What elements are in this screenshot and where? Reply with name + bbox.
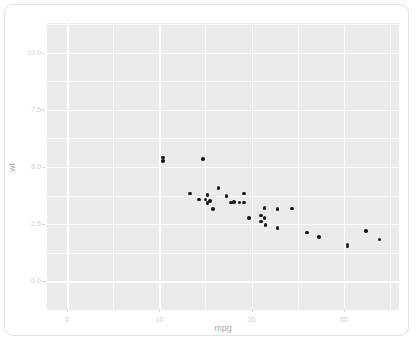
data-point bbox=[161, 156, 165, 160]
data-point bbox=[276, 207, 280, 211]
data-point bbox=[206, 193, 210, 197]
plot-card: 0.02.55.07.510.0 0102030 mpg wt bbox=[4, 4, 409, 336]
x-axis-title-text: mpg bbox=[214, 323, 232, 333]
gridline-minor-horizontal bbox=[47, 253, 399, 254]
gridline-minor-horizontal bbox=[47, 24, 399, 25]
x-axis-title: mpg bbox=[47, 324, 399, 333]
gridline-major-horizontal bbox=[47, 53, 399, 54]
y-tick-mark bbox=[42, 224, 45, 225]
gridline-major-horizontal bbox=[47, 110, 399, 111]
y-tick-label: 5.0 bbox=[31, 163, 41, 170]
data-point bbox=[378, 238, 382, 242]
y-axis-title-text: wt bbox=[8, 163, 17, 172]
x-tick-label: 0 bbox=[53, 316, 81, 323]
scatter-plot-figure: 0.02.55.07.510.0 0102030 mpg wt bbox=[5, 5, 410, 337]
data-point bbox=[263, 216, 267, 220]
data-point bbox=[264, 223, 268, 227]
data-point bbox=[197, 198, 201, 202]
y-tick-mark bbox=[42, 281, 45, 282]
data-point bbox=[259, 220, 263, 224]
data-point bbox=[364, 229, 368, 233]
x-tick-label: 20 bbox=[238, 316, 266, 323]
data-point bbox=[211, 207, 215, 211]
gridline-major-horizontal bbox=[47, 224, 399, 225]
gridline-minor-horizontal bbox=[47, 138, 399, 139]
y-axis-title: wt bbox=[7, 23, 17, 311]
gridline-minor-horizontal bbox=[47, 81, 399, 82]
y-tick-label: 0.0 bbox=[31, 277, 41, 284]
x-tick-label: 10 bbox=[145, 316, 173, 323]
x-tick-mark bbox=[159, 309, 160, 312]
x-tick-mark bbox=[344, 309, 345, 312]
data-point bbox=[217, 186, 221, 190]
x-tick-mark bbox=[67, 309, 68, 312]
gridline-major-horizontal bbox=[47, 281, 399, 282]
gridline-major-horizontal bbox=[47, 167, 399, 168]
data-point bbox=[276, 226, 280, 230]
x-tick-label: 30 bbox=[330, 316, 358, 323]
data-point bbox=[206, 201, 210, 205]
data-point bbox=[317, 235, 321, 239]
y-tick-label: 10.0 bbox=[27, 49, 41, 56]
data-point bbox=[305, 231, 309, 235]
data-point bbox=[161, 159, 165, 163]
data-point bbox=[188, 192, 192, 196]
y-tick-mark bbox=[42, 53, 45, 54]
gridline-minor-horizontal bbox=[47, 310, 399, 311]
data-point bbox=[263, 206, 267, 210]
data-point bbox=[290, 207, 294, 211]
data-point bbox=[201, 157, 205, 161]
gridline-minor-horizontal bbox=[47, 196, 399, 197]
plot-panel bbox=[47, 23, 399, 311]
data-point bbox=[346, 245, 350, 249]
x-tick-mark bbox=[252, 309, 253, 312]
data-point bbox=[247, 216, 251, 220]
y-tick-mark bbox=[42, 167, 45, 168]
y-tick-label: 2.5 bbox=[31, 220, 41, 227]
data-point bbox=[242, 192, 246, 196]
data-point bbox=[225, 194, 229, 198]
y-tick-label: 7.5 bbox=[31, 106, 41, 113]
data-point bbox=[238, 201, 242, 205]
y-axis-tick-labels: 0.02.55.07.510.0 bbox=[15, 23, 41, 311]
y-tick-mark bbox=[42, 110, 45, 111]
data-point bbox=[242, 201, 246, 205]
